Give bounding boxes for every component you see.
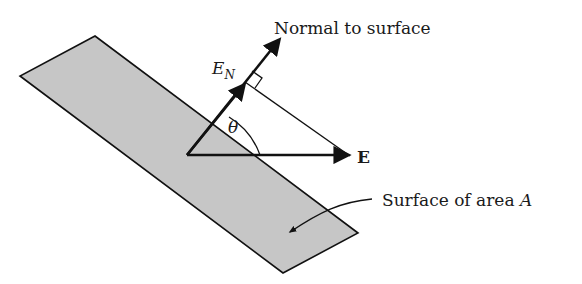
surface-label-text: Surface of area bbox=[382, 190, 520, 210]
en-label-main: E bbox=[211, 58, 225, 78]
e-field-label: E bbox=[357, 147, 370, 167]
flux-diagram: Normal to surface EN θ E Surface of area… bbox=[0, 0, 582, 284]
projection-line bbox=[245, 82, 350, 156]
surface-label-var: A bbox=[518, 190, 532, 210]
surface-label: Surface of area A bbox=[382, 190, 532, 210]
theta-label: θ bbox=[228, 117, 238, 137]
en-label: EN bbox=[211, 58, 235, 82]
en-label-sub: N bbox=[223, 68, 235, 82]
normal-label: Normal to surface bbox=[274, 18, 431, 38]
